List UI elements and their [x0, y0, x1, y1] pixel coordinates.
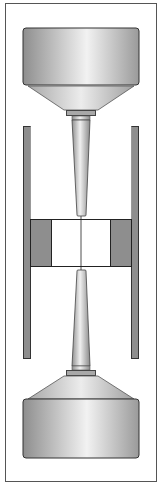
left-side-plate — [24, 127, 31, 359]
right-gasket-block — [111, 220, 132, 267]
upper-collar-ring — [72, 116, 90, 120]
upper-collar — [67, 111, 96, 116]
right-side-plate — [132, 127, 139, 359]
apparatus-diagram — [0, 0, 162, 487]
lower-collar-ring — [72, 366, 90, 370]
upper-anvil-body — [23, 28, 139, 85]
lower-anvil-body — [23, 399, 139, 458]
lower-collar — [67, 371, 96, 376]
left-gasket-block — [31, 220, 52, 267]
